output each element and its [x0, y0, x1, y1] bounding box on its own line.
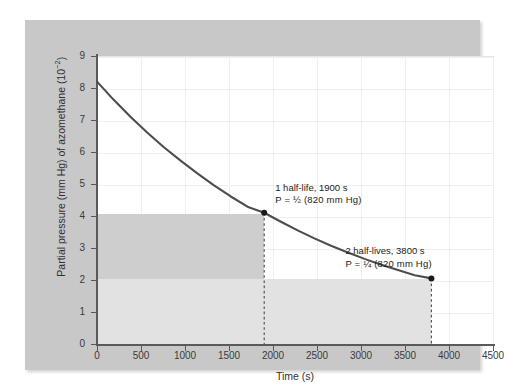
data-point-marker [261, 210, 267, 216]
data-point-marker [428, 275, 434, 281]
y-axis-label-exponent: −2 [53, 60, 62, 69]
annotation-first-prefix: P = [275, 194, 293, 205]
annotation-first-suffix: (820 mm Hg) [301, 194, 361, 205]
dashed-drop-lines [264, 213, 431, 344]
annotation-first-fraction: ½ [293, 194, 301, 205]
chart-panel: 0123456789 05001000150020002500300035004… [25, 20, 480, 370]
annotation-first-half-life: 1 half-life, 1900 s P = ½ (820 mm Hg) [275, 182, 361, 207]
decay-curve-layer [25, 20, 480, 370]
annotation-second-suffix: (820 mm Hg) [371, 258, 431, 269]
y-axis-label-main: Partial pressure (mm Hg) of azomethane (… [55, 69, 67, 277]
annotation-second-line2: P = ¼ (820 mm Hg) [345, 258, 431, 271]
figure-container: 0123456789 05001000150020002500300035004… [0, 0, 508, 385]
x-axis-label: Time (s) [97, 370, 493, 382]
gridline-vertical [493, 57, 494, 345]
annotation-second-line1: 2 half-lives, 3800 s [345, 245, 431, 258]
annotation-second-prefix: P = [345, 258, 363, 269]
y-axis-label: Partial pressure (mm Hg) of azomethane (… [53, 42, 67, 292]
annotation-second-half-life: 2 half-lives, 3800 s P = ¼ (820 mm Hg) [345, 245, 431, 270]
annotation-first-line1: 1 half-life, 1900 s [275, 182, 361, 195]
y-axis-label-tail: ) [55, 57, 67, 61]
annotation-first-line2: P = ½ (820 mm Hg) [275, 194, 361, 207]
